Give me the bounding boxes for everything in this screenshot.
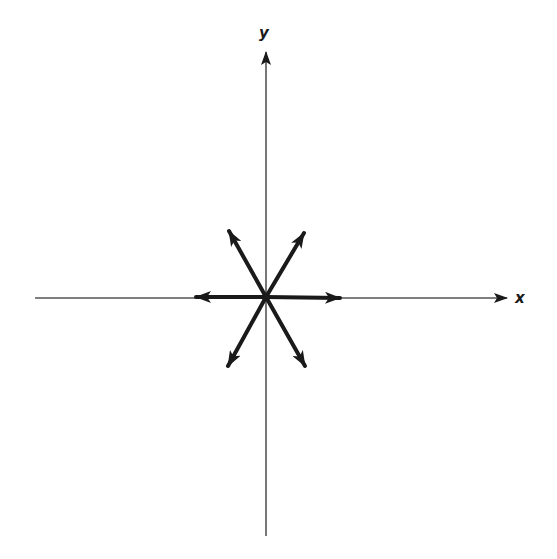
- origin-point: [262, 293, 270, 301]
- x-axis-label: x: [515, 289, 525, 307]
- vector-lower-right-arrow-icon: [266, 297, 305, 366]
- vector-diagram: [0, 0, 557, 559]
- vector-lower-left-arrow-icon: [228, 297, 266, 366]
- axes: [35, 52, 507, 536]
- vector-upper-left-arrow-icon: [229, 231, 266, 297]
- vector-upper-right-arrow-icon: [266, 233, 304, 297]
- y-axis-label: y: [259, 24, 269, 42]
- vector-right-arrow-icon: [266, 297, 340, 298]
